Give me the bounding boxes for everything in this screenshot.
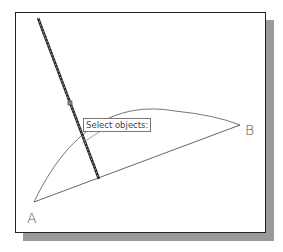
point-label-a: A	[27, 210, 37, 226]
command-tooltip: Select objects:	[83, 118, 151, 132]
midpoint-grip[interactable]	[68, 101, 72, 105]
point-label-b: B	[245, 122, 254, 138]
line-ab[interactable]	[34, 125, 240, 202]
